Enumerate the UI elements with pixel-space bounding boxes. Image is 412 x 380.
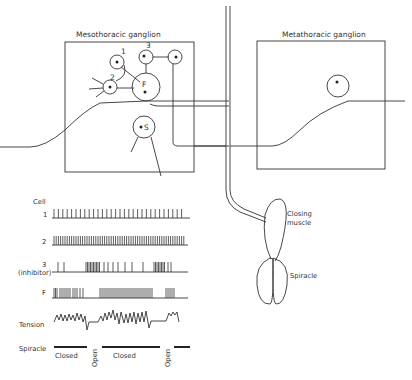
spike-train-cell-f bbox=[54, 288, 174, 298]
neuron-2-label: 2 bbox=[110, 73, 115, 82]
metathoracic-ganglion: Metathoracic ganglion bbox=[257, 30, 405, 169]
neuron-s-label: S bbox=[144, 123, 149, 132]
closing-muscle: Closing muscle bbox=[264, 199, 312, 261]
neuron-1-label: 1 bbox=[121, 47, 126, 56]
trace-label-cell-3: 3 bbox=[42, 261, 46, 269]
metathoracic-label: Metathoracic ganglion bbox=[282, 30, 366, 39]
spiracle-state-open-2: Open bbox=[164, 349, 172, 367]
spiracle-control-diagram: Mesothoracic ganglion 1 2 3 bbox=[0, 0, 412, 380]
nerve bbox=[194, 6, 266, 222]
spiracle: Spiracle bbox=[257, 258, 318, 304]
spiracle-state-closed-2: Closed bbox=[113, 352, 136, 360]
neuron-f: F bbox=[132, 73, 160, 101]
spike-train-cell-1 bbox=[54, 209, 182, 218]
closing-muscle-label-2: muscle bbox=[287, 219, 311, 227]
spiracle-state-closed-1: Closed bbox=[55, 352, 78, 360]
spike-train-cell-2 bbox=[54, 236, 184, 245]
tension-trace bbox=[54, 310, 179, 330]
traces-panel: Cell 1 2 3 (inhibitor) F Tension Spiracl… bbox=[18, 198, 190, 367]
neuron-s: S bbox=[131, 116, 161, 176]
mesothoracic-ganglion: Mesothoracic ganglion 1 2 3 bbox=[0, 30, 229, 176]
neuron-f-label: F bbox=[142, 80, 146, 89]
trace-label-cell-f: F bbox=[42, 289, 46, 297]
neuron-3-label: 3 bbox=[146, 41, 151, 50]
neuron-2: 2 bbox=[89, 73, 134, 97]
closing-muscle-label-1: Closing bbox=[287, 210, 312, 218]
mesothoracic-label: Mesothoracic ganglion bbox=[76, 30, 161, 39]
spike-train-cell-3 bbox=[58, 262, 171, 272]
neuron-unlabeled bbox=[168, 50, 229, 146]
neuron-3: 3 bbox=[139, 41, 169, 73]
traces-header: Cell bbox=[33, 198, 46, 206]
trace-label-spiracle: Spiracle bbox=[19, 345, 46, 353]
spiracle-label: Spiracle bbox=[290, 272, 317, 280]
trace-label-cell-1: 1 bbox=[43, 211, 47, 219]
trace-sublabel-inhibitor: (inhibitor) bbox=[18, 269, 52, 277]
trace-label-tension: Tension bbox=[18, 321, 44, 329]
trace-label-cell-2: 2 bbox=[42, 238, 46, 246]
spiracle-state-open-1: Open bbox=[91, 349, 99, 367]
